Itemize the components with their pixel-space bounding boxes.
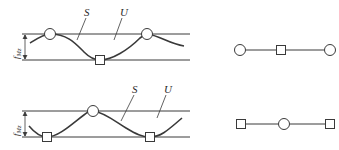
top-circle-node-1 bbox=[45, 29, 56, 40]
top-s-leader-line bbox=[77, 18, 86, 40]
top-square-node bbox=[96, 56, 105, 65]
schematic-bottom-circle bbox=[279, 119, 290, 130]
schematic-top-square bbox=[277, 46, 286, 55]
schematic-bottom-square-left bbox=[237, 120, 246, 129]
top-s-label: S bbox=[84, 6, 90, 18]
schematic-bottom-square-right bbox=[326, 120, 335, 129]
bottom-square-node-2 bbox=[146, 133, 155, 142]
bottom-dimension-label: fMz bbox=[11, 125, 22, 136]
top-node-schematic bbox=[235, 45, 336, 56]
bottom-s-leader-line bbox=[121, 95, 134, 121]
top-circle-node-2 bbox=[142, 29, 153, 40]
bottom-node-schematic bbox=[237, 119, 335, 130]
bottom-s-label: S bbox=[132, 83, 138, 95]
bottom-dimension-arrow bbox=[23, 112, 27, 136]
schematic-top-circle-right bbox=[325, 45, 336, 56]
bottom-circle-node bbox=[88, 106, 99, 117]
top-dimension-arrow bbox=[23, 35, 27, 59]
schematic-top-circle-left bbox=[235, 45, 246, 56]
top-u-leader-line bbox=[114, 18, 122, 40]
bottom-u-label: U bbox=[164, 83, 173, 95]
figure-canvas: S U fMz S U fMz bbox=[0, 0, 339, 150]
bottom-u-leader-line bbox=[157, 95, 166, 118]
top-dimension-label: fMz bbox=[11, 48, 22, 59]
top-u-label: U bbox=[120, 6, 129, 18]
bottom-square-node-1 bbox=[43, 133, 52, 142]
